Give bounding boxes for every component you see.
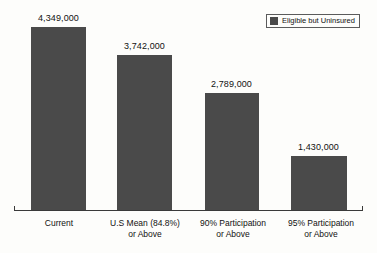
x-axis-tick-left	[14, 206, 15, 211]
x-axis-line	[14, 210, 363, 211]
x-label-us-mean-line-1: U.S Mean (84.8%)	[100, 218, 190, 229]
x-label-90-participation-line-1: 90% Participation	[188, 218, 278, 229]
plot-area: 4,349,000 3,742,000 2,789,000 1,430,000	[0, 0, 377, 211]
bar-95-participation	[291, 156, 347, 211]
x-axis-labels: Current U.S Mean (84.8%) or Above 90% Pa…	[0, 216, 377, 253]
x-label-us-mean-line-2: or Above	[100, 229, 190, 240]
bar-value-us-mean: 3,742,000	[107, 41, 182, 51]
x-label-90-participation-line-2: or Above	[188, 229, 278, 240]
bar-current	[31, 27, 86, 211]
x-label-current-line-1: Current	[24, 218, 94, 229]
x-axis-tick-right	[362, 206, 363, 211]
x-label-90-participation: 90% Participation or Above	[188, 218, 278, 239]
x-label-95-participation-line-1: 95% Participation	[276, 218, 366, 229]
x-label-95-participation-line-2: or Above	[276, 229, 366, 240]
bar-value-current: 4,349,000	[21, 13, 96, 23]
bar-value-90-participation: 2,789,000	[194, 79, 269, 89]
bar-value-95-participation: 1,430,000	[281, 142, 356, 152]
bar-chart: Eligible but Uninsured 4,349,000 3,742,0…	[0, 0, 377, 253]
x-label-95-participation: 95% Participation or Above	[276, 218, 366, 239]
x-label-current: Current	[24, 218, 94, 229]
bar-us-mean	[117, 55, 172, 211]
x-label-us-mean: U.S Mean (84.8%) or Above	[100, 218, 190, 239]
bar-90-participation	[205, 93, 259, 211]
